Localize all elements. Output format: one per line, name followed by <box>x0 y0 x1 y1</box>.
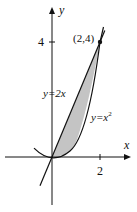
parabola-eq-exponent: 2 <box>108 110 112 118</box>
y-axis-label: y <box>59 4 64 16</box>
point-label: (2,4) <box>73 33 94 44</box>
y-axis-arrow-icon <box>49 7 55 14</box>
x-axis-arrow-icon <box>124 154 131 160</box>
parabola-equation-label: y=x2 <box>91 111 112 123</box>
x-tick-label: 2 <box>97 165 103 177</box>
curve-line-y-2x <box>40 31 105 186</box>
diagram-canvas <box>0 0 137 212</box>
line-equation-label: y=2x <box>43 88 66 99</box>
x-axis-label: x <box>124 139 129 151</box>
line-eq-prefix: y=2 <box>43 87 61 99</box>
parabola-eq-prefix: y= <box>91 111 103 123</box>
intersection-point <box>98 40 102 44</box>
line-eq-var: x <box>61 87 66 99</box>
y-tick-label: 4 <box>38 36 44 48</box>
